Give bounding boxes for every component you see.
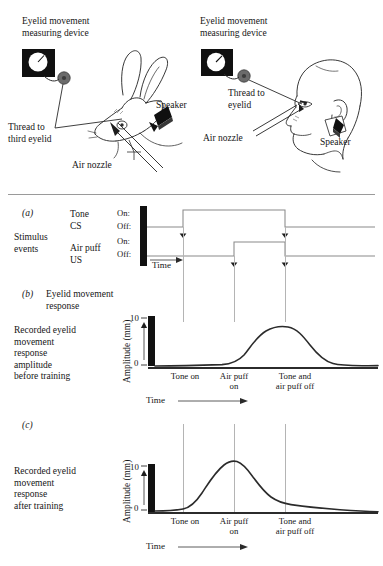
panel-c-axis-bar [148,464,155,512]
section-divider [8,194,375,195]
rabbit-air-nozzle-label: Air nozzle [72,160,112,172]
panel-c-axis-arrow [141,470,147,505]
panel-b-letter: (b) [22,289,33,299]
rabbit-apparatus-illustration [0,0,200,185]
panel-b-xlabel-tone-on: Tone on [155,371,215,381]
panel-c-time-label: Time [146,541,165,551]
panel-c-time-arrow [0,538,383,558]
panel-b-axis-arrow [141,322,147,360]
panel-c-letter: (c) [22,420,33,430]
eyelid-conditioning-figure: Eyelid movement measuring device [0,0,383,566]
panel-a-tone-trace [147,210,375,227]
rabbit-pulley-icon [58,72,70,84]
panel-b-axis-bar [148,316,155,366]
panel-a-airpuff-trace [147,242,375,256]
panel-c-response-curve [155,461,378,512]
panel-a-time-label: Time [152,260,171,270]
human-air-nozzle-label: Air nozzle [203,133,243,145]
human-speaker-label: Speaker [320,137,351,149]
panel-b-time-label: Time [146,395,165,405]
panel-a-timing-chart [0,200,383,300]
panel-a-axis-bar [140,206,147,266]
panel-b-response-chart [0,300,383,380]
human-thread-label: Thread to eyelid [228,88,265,111]
panel-b-xlabel-offset: Tone and air puff off [259,371,331,392]
panel-b-time-arrow [0,392,383,412]
panel-b-xlabel-airpuff-on: Air puff on [208,371,260,392]
panel-b-response-curve [155,326,378,366]
panel-c-response-chart [0,440,383,525]
rabbit-thread-label: Thread to third eyelid [8,122,52,145]
human-measuring-device-icon [201,49,233,76]
panel-c-xlabel-airpuff-on: Air puff on [208,516,260,537]
rabbit-speaker-label: Speaker [156,100,187,112]
panel-c-xlabel-tone-on: Tone on [155,516,215,526]
rabbit-eye-icon [117,121,127,129]
panel-c-xlabel-offset: Tone and air puff off [259,516,331,537]
human-speaker-icon [325,116,346,138]
human-pulley-icon [238,70,250,82]
human-apparatus-illustration [190,0,383,185]
rabbit-measuring-device-icon [22,49,55,77]
